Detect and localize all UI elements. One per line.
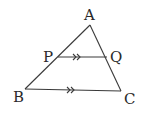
- triangle-diagram: A B C P Q: [0, 0, 144, 114]
- label-A: A: [83, 6, 95, 24]
- label-B: B: [13, 88, 24, 106]
- label-C: C: [124, 90, 135, 108]
- label-P: P: [43, 48, 53, 66]
- label-Q: Q: [110, 48, 122, 66]
